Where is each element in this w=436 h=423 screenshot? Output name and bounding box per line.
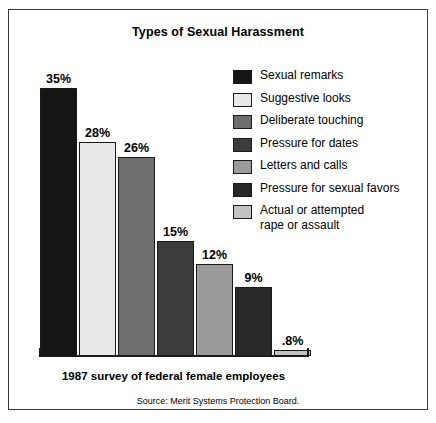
bar-rect — [118, 157, 155, 356]
bar-value-label: 12% — [202, 248, 227, 262]
legend-item-1[interactable]: Sexual remarks — [233, 68, 423, 87]
bar-value-label: 28% — [85, 126, 110, 140]
legend-item-label: Suggestive looks — [260, 91, 351, 106]
bar-rect — [79, 142, 116, 356]
legend-swatch-icon — [233, 70, 252, 84]
bar-value-label: .8% — [282, 334, 304, 348]
legend-item-label: Pressure for sexual favors — [260, 181, 399, 196]
bar-rect — [40, 88, 77, 356]
chart-legend: Sexual remarksSuggestive looksDeliberate… — [233, 68, 423, 236]
bar-value-label: 9% — [244, 271, 262, 285]
bar-2[interactable]: 28% — [79, 118, 116, 356]
legend-item-4[interactable]: Pressure for dates — [233, 136, 423, 155]
legend-item-label: Letters and calls — [260, 158, 347, 173]
legend-swatch-icon — [233, 205, 252, 219]
bar-4[interactable]: 15% — [157, 217, 194, 356]
chart-title: Types of Sexual Harassment — [9, 25, 427, 39]
legend-item-7[interactable]: Actual or attempted rape or assault — [233, 203, 423, 232]
legend-item-6[interactable]: Pressure for sexual favors — [233, 181, 423, 200]
legend-swatch-icon — [233, 115, 252, 129]
bar-6[interactable]: 9% — [235, 263, 272, 356]
bar-value-label: 26% — [124, 141, 149, 155]
legend-item-label: Deliberate touching — [260, 113, 363, 128]
legend-item-label: Sexual remarks — [260, 68, 343, 83]
bar-1[interactable]: 35% — [40, 64, 77, 356]
legend-item-3[interactable]: Deliberate touching — [233, 113, 423, 132]
legend-swatch-icon — [233, 138, 252, 152]
bar-value-label: 15% — [163, 225, 188, 239]
bar-3[interactable]: 26% — [118, 133, 155, 356]
bar-rect — [157, 241, 194, 356]
bar-rect — [196, 264, 233, 356]
legend-item-label: Actual or attempted rape or assault — [260, 203, 364, 232]
bar-rect — [235, 287, 272, 356]
legend-swatch-icon — [233, 160, 252, 174]
legend-item-label: Pressure for dates — [260, 136, 358, 151]
bar-value-label: 35% — [46, 72, 71, 86]
chart-figure: Types of Sexual Harassment 35%28%26%15%1… — [8, 9, 428, 410]
legend-item-2[interactable]: Suggestive looks — [233, 91, 423, 110]
bar-5[interactable]: 12% — [196, 240, 233, 356]
legend-swatch-icon — [233, 93, 252, 107]
x-axis-caption: 1987 survey of federal female employees — [31, 370, 316, 382]
bar-7[interactable]: .8% — [274, 326, 311, 356]
x-axis-tick-right — [307, 348, 309, 357]
legend-swatch-icon — [233, 183, 252, 197]
x-axis-tick-left — [39, 348, 41, 357]
legend-item-5[interactable]: Letters and calls — [233, 158, 423, 177]
x-axis-line — [39, 355, 309, 357]
source-note: Source: Merit Systems Protection Board. — [9, 396, 427, 406]
